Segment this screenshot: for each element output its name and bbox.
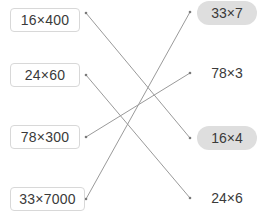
left-dot-2[interactable] [85,74,88,77]
left-expression-box[interactable]: 78×300 [10,125,80,149]
expression-label: 24×60 [25,67,65,83]
expression-label: 16×4 [211,130,243,146]
left-expression-box[interactable]: 16×400 [10,8,80,32]
left-dot-1[interactable] [85,12,88,15]
right-dot-4[interactable] [189,197,192,200]
right-expression-pill[interactable]: 16×4 [197,126,257,150]
left-expression-box[interactable]: 33×7000 [10,187,85,211]
right-dot-3[interactable] [189,137,192,140]
right-dot-1[interactable] [189,11,192,14]
expression-label: 78×300 [21,129,69,145]
expression-label: 78×3 [211,65,243,81]
right-expression-text[interactable]: 78×3 [197,61,257,85]
expression-label: 33×7000 [19,191,75,207]
connection-line-16x400-16x4 [86,13,190,138]
left-dot-4[interactable] [85,198,88,201]
expression-label: 16×400 [21,12,69,28]
left-dot-3[interactable] [85,136,88,139]
right-dot-2[interactable] [189,72,192,75]
right-expression-pill[interactable]: 33×7 [197,1,257,25]
expression-label: 33×7 [211,5,243,21]
connection-line-24x60-24x6 [86,75,190,198]
connection-line-33x7000-33x7 [86,12,190,199]
right-expression-text[interactable]: 24×6 [197,186,257,210]
expression-label: 24×6 [211,190,243,206]
left-expression-box[interactable]: 24×60 [10,63,80,87]
